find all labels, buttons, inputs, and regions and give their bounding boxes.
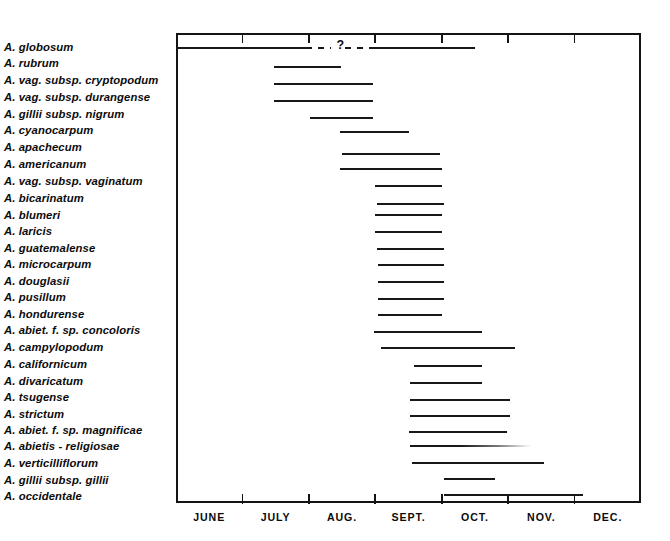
axis-tick-aug xyxy=(308,33,310,43)
axis-tick-july xyxy=(242,33,244,43)
axis-tick-oct xyxy=(441,33,443,43)
dispersal-bar xyxy=(274,100,373,102)
bars-layer: ? xyxy=(0,0,670,541)
axis-tick-sept xyxy=(374,494,376,504)
dispersal-bar-uncertain xyxy=(306,47,332,49)
dispersal-bar xyxy=(410,399,510,401)
dispersal-bar xyxy=(310,117,373,119)
month-axis-labels: JUNEJULYAUG.SEPT.OCT.NOV.DEC. xyxy=(0,511,670,531)
dispersal-bar xyxy=(377,203,445,205)
dispersal-bar xyxy=(410,445,531,447)
axis-tick-dec xyxy=(574,33,576,43)
dispersal-bar xyxy=(274,66,342,68)
dispersal-bar xyxy=(381,347,516,349)
dispersal-bar-uncertain xyxy=(345,47,375,49)
dispersal-bar xyxy=(340,168,442,170)
dispersal-bar xyxy=(375,47,475,49)
dispersal-bar xyxy=(375,231,442,233)
month-label-aug: AUG. xyxy=(327,511,357,523)
month-label-july: JULY xyxy=(261,511,291,523)
dispersal-bar xyxy=(414,365,482,367)
axis-tick-oct xyxy=(441,494,443,504)
dispersal-bar xyxy=(274,83,373,85)
axis-tick-july xyxy=(242,494,244,504)
dispersal-bar xyxy=(377,248,445,250)
dispersal-bar xyxy=(374,331,482,333)
dispersal-bar xyxy=(342,153,440,155)
month-label-dec: DEC. xyxy=(593,511,622,523)
month-label-oct: OCT. xyxy=(461,511,489,523)
dispersal-bar xyxy=(378,264,444,266)
dispersal-period-chart: A. globosumA. rubrumA. vag. subsp. crypt… xyxy=(0,0,670,541)
month-label-sept: SEPT. xyxy=(392,511,426,523)
month-label-nov: NOV. xyxy=(527,511,556,523)
dispersal-bar xyxy=(444,494,583,496)
axis-tick-sept xyxy=(374,33,376,43)
dispersal-bar xyxy=(409,431,507,433)
uncertainty-question-mark: ? xyxy=(336,39,344,52)
dispersal-bar xyxy=(340,131,409,133)
dispersal-bar xyxy=(375,214,442,216)
month-label-june: JUNE xyxy=(193,511,225,523)
dispersal-bar xyxy=(378,281,444,283)
dispersal-bar xyxy=(375,185,442,187)
axis-tick-aug xyxy=(308,494,310,504)
dispersal-bar xyxy=(410,415,510,417)
dispersal-bar xyxy=(444,478,495,480)
dispersal-bar xyxy=(378,298,444,300)
dispersal-bar xyxy=(410,382,481,384)
dispersal-bar xyxy=(176,47,306,49)
dispersal-bar xyxy=(412,462,544,464)
axis-tick-nov xyxy=(507,33,509,43)
dispersal-bar xyxy=(378,314,442,316)
